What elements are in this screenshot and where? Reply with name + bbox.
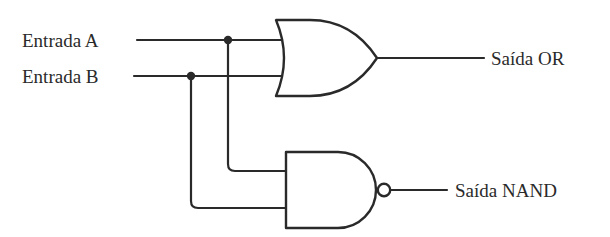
- or-gate: [276, 20, 377, 96]
- junction-dot-a: [224, 36, 232, 44]
- wire-branch-b-to-nand: [191, 76, 286, 208]
- nand-inversion-bubble: [378, 184, 390, 196]
- nand-gate: [286, 152, 376, 228]
- input-label-a: Entrada A: [22, 31, 99, 50]
- output-label-or: Saída OR: [491, 49, 564, 68]
- junction-dot-b: [187, 72, 195, 80]
- logic-circuit-diagram: Entrada A Entrada B Saída OR Saída NAND: [0, 0, 610, 237]
- wire-branch-a-to-nand: [228, 40, 286, 171]
- output-label-nand: Saída NAND: [455, 181, 557, 200]
- input-label-b: Entrada B: [22, 67, 99, 86]
